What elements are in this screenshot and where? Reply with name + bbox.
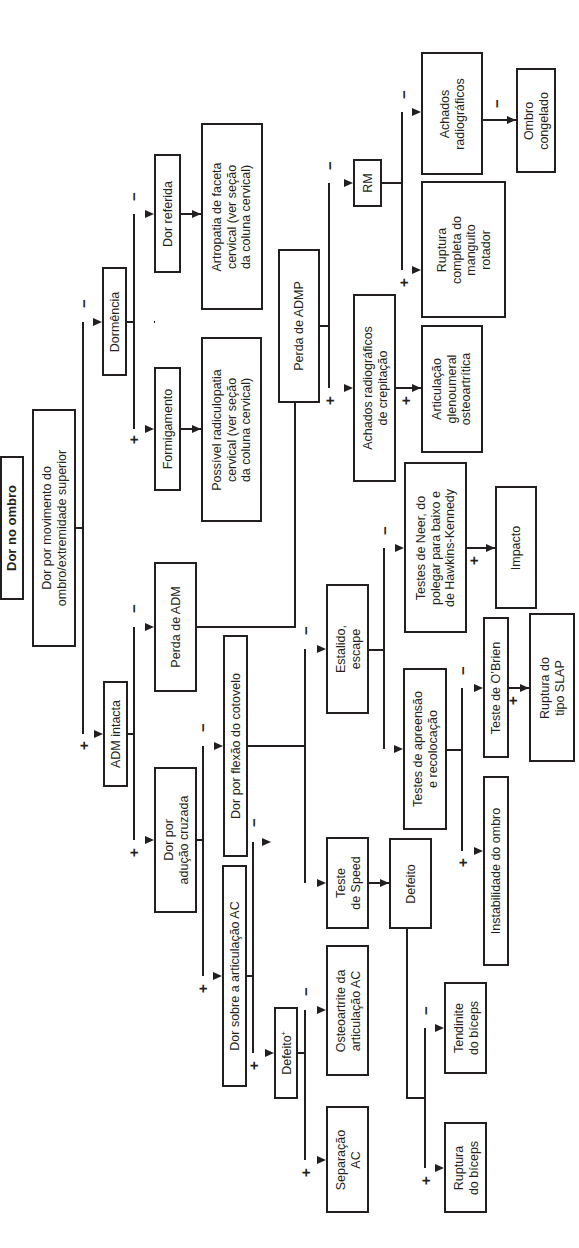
node-dor-sobre-ac: Dor sobre a articulação AC <box>222 865 247 1087</box>
node-label: RM <box>360 173 375 192</box>
plus-sign: + <box>396 278 411 287</box>
minus-sign: − <box>489 99 504 108</box>
arrowhead-icon <box>520 684 529 692</box>
plus-sign: + <box>322 396 337 405</box>
arrowhead-icon <box>412 108 421 116</box>
minus-sign: − <box>455 666 470 675</box>
arrowhead-icon <box>317 879 326 887</box>
arrowhead-icon <box>192 425 201 433</box>
arrowhead-icon <box>145 210 154 218</box>
arrowhead-icon <box>317 645 326 653</box>
node-label: Dor sobre a articulação AC <box>227 901 242 1050</box>
node-label: Achados radiográficos de crepitação <box>360 326 389 450</box>
node-label: Testes de Neer, do polegar para baixo e … <box>414 488 458 606</box>
arrowhead-icon <box>93 318 102 326</box>
minus-sign: − <box>377 526 392 535</box>
node-label: Ruptura do bíceps <box>451 1140 480 1194</box>
arrowhead-icon <box>344 384 353 392</box>
footnote-marker: + <box>280 1031 287 1035</box>
arrowhead-icon <box>145 623 154 631</box>
node-teste-obrien: Teste de O’Brien <box>483 617 509 758</box>
node-dor-referida: Dor referida <box>154 154 181 273</box>
arrowhead-icon <box>412 266 421 274</box>
arrowhead-icon <box>214 742 223 750</box>
arrowhead-icon <box>145 836 154 844</box>
node-label: Achados radiográficos <box>438 78 467 150</box>
arrowhead-icon <box>317 1156 326 1164</box>
node-separacao-ac: Separação AC <box>326 1106 369 1213</box>
node-label: Defeito+ <box>277 1031 295 1075</box>
plus-sign: + <box>455 858 470 867</box>
node-label: Dormência <box>107 291 122 351</box>
node-teste-speed: Teste de Speed <box>326 837 369 929</box>
arrowhead-icon <box>94 730 103 738</box>
arrowhead-icon <box>344 179 353 187</box>
node-tendinite-biceps: Tendinite do bíceps <box>444 982 487 1074</box>
arrowhead-icon <box>474 847 483 855</box>
plus-sign: + <box>126 435 141 444</box>
minus-sign: − <box>126 192 141 201</box>
node-perda-adm: Perda de ADM <box>154 562 197 692</box>
arrowhead-icon <box>507 116 516 124</box>
node-label: Teste de O’Brien <box>489 641 504 733</box>
minus-sign: − <box>246 818 261 827</box>
node-label: Formigamento <box>160 389 175 470</box>
arrowhead-icon <box>412 384 421 392</box>
node-label: ADM intacta <box>108 700 123 768</box>
node-label: Dor por adução cruzada <box>161 796 190 885</box>
node-aducao-cruzada: Dor por adução cruzada <box>154 767 197 913</box>
minus-sign: − <box>195 723 210 732</box>
node-achados-radiograficos: Achados radiográficos <box>421 52 483 175</box>
arrowhead-icon <box>435 1164 444 1172</box>
plus-sign: + <box>466 556 481 565</box>
node-testes-apreensao: Testes de apreensão e recolocação <box>403 668 447 830</box>
node-label: Defeito <box>403 864 418 904</box>
arrowhead-icon <box>435 1024 444 1032</box>
node-radiculopatia: Possível radiculopatia cervical (ver seç… <box>201 337 262 522</box>
arrowhead-icon <box>213 972 222 980</box>
arrowhead-icon <box>395 544 404 552</box>
minus-sign: − <box>396 90 411 99</box>
node-rm: RM <box>353 159 382 207</box>
node-dormencia: Dormência <box>102 267 127 376</box>
node-estalido: Estalido, escape <box>326 584 369 714</box>
node-label: Teste de Speed <box>333 856 362 910</box>
plus-sign: + <box>76 741 91 750</box>
node-label: Dor no ombro <box>5 485 20 571</box>
node-label: Dor por movimento do ombro/extremidade s… <box>40 450 69 606</box>
flowchart-canvas: Dor no ombroDor por movimento do ombro/e… <box>0 0 579 1248</box>
arrowhead-icon <box>145 425 154 433</box>
node-glenoumeral: Articulação glenoumeral osteoartrítica <box>421 325 483 453</box>
node-label: Tendinite do bíceps <box>451 1001 480 1055</box>
node-ombro-congelado: Ombro congelado <box>516 68 556 173</box>
plus-sign: + <box>298 1168 313 1177</box>
node-ruptura-manguito: Ruptura completa do manguito rotador <box>421 181 506 318</box>
node-adm-intacta: ADM intacta <box>103 681 128 787</box>
plus-sign: + <box>126 848 141 857</box>
node-label: Testes de apreensão e recolocação <box>411 691 440 807</box>
minus-sign: − <box>76 299 91 308</box>
node-label: Impacto <box>509 525 524 569</box>
plus-sign: + <box>398 396 413 405</box>
minus-sign: − <box>298 626 313 635</box>
node-label: Possível radiculopatia cervical (ver seç… <box>210 369 254 491</box>
minus-sign: − <box>126 604 141 613</box>
node-label: Dor por flexão do cotovelo <box>228 673 243 819</box>
node-label: Articulação glenoumeral osteoartrítica <box>430 353 474 425</box>
node-dor-movimento: Dor por movimento do ombro/extremidade s… <box>32 409 76 647</box>
node-ruptura-biceps: Ruptura do bíceps <box>444 1122 487 1213</box>
node-label: Perda de ADMP <box>292 281 307 371</box>
node-title: Dor no ombro <box>0 456 24 600</box>
plus-sign: + <box>195 984 210 993</box>
arrowhead-icon <box>262 838 271 846</box>
node-label: Osteoartrite da articulação AC <box>333 969 362 1052</box>
arrowhead-icon <box>192 210 201 218</box>
node-osteoartrite-ac: Osteoartrite da articulação AC <box>326 945 369 1076</box>
node-label: Artropatia de faceta cervical (ver seção… <box>210 162 254 271</box>
arrowhead-icon <box>380 879 389 887</box>
node-label: Ombro congelado <box>522 92 551 150</box>
plus-sign: + <box>505 696 520 705</box>
arrowhead-icon <box>474 684 483 692</box>
minus-sign: − <box>322 161 337 170</box>
node-achados-crepitacao: Achados radiográficos de crepitação <box>353 294 396 482</box>
